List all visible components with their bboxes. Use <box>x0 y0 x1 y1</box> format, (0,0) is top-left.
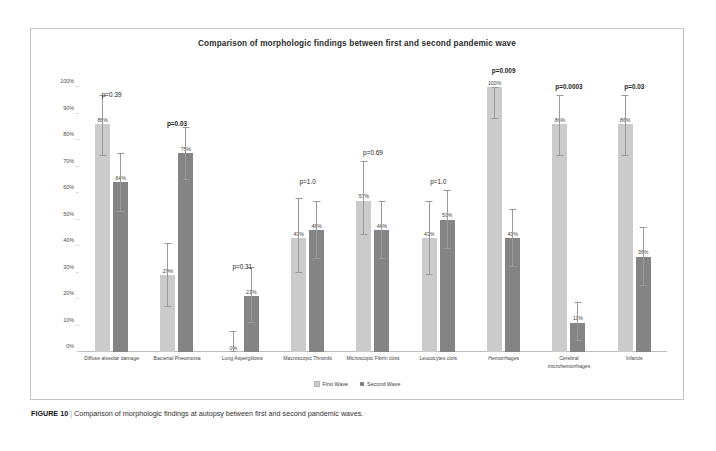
p-value-annotation: p=1.0 <box>430 178 446 185</box>
category-label: Diffuse alveolar damage <box>79 355 144 370</box>
bar-value-label: 100% <box>488 80 501 86</box>
error-bar <box>574 302 581 342</box>
figure-page: Comparison of morphologic findings betwe… <box>0 0 716 451</box>
legend-label: First Wave <box>323 381 349 387</box>
figure-caption: FIGURE 10|Comparison of morphologic find… <box>31 409 681 419</box>
error-bar-cap-bottom <box>622 155 629 156</box>
error-bar <box>556 95 563 156</box>
error-bar-cap-top <box>164 243 171 244</box>
error-bar-stem <box>643 227 644 285</box>
category-label: Leucocytes clots <box>406 355 471 370</box>
error-bar <box>99 95 106 156</box>
legend-label: Second Wave <box>367 381 400 387</box>
p-value-annotation: p=0.69 <box>363 149 383 156</box>
bar[interactable]: 86% <box>95 124 110 352</box>
bar-slot: 46% <box>309 87 324 352</box>
bar-slot: 86% <box>95 87 110 352</box>
error-bar <box>117 153 124 211</box>
error-bar <box>360 161 367 235</box>
p-value-annotation: p=0.0003 <box>555 83 582 90</box>
error-bar-stem <box>316 201 317 259</box>
bar-slot: 86% <box>618 87 633 352</box>
error-bar-stem <box>298 198 299 272</box>
error-bar-cap-top <box>426 201 433 202</box>
error-bar-cap-top <box>117 153 124 154</box>
error-bar-cap-bottom <box>574 340 581 341</box>
legend-swatch-icon <box>314 381 320 387</box>
p-value-annotation: p=0.03 <box>167 120 187 127</box>
y-axis-tick-label: 40% <box>63 237 74 243</box>
bar-group: 100%43%p=0.009 <box>471 87 536 352</box>
p-value-annotation: p=0.03 <box>624 83 644 90</box>
error-bar-cap-bottom <box>248 322 255 323</box>
p-value-annotation: p=0.009 <box>492 67 516 74</box>
error-bar-stem <box>102 95 103 156</box>
bar[interactable]: 86% <box>552 124 567 352</box>
y-axis-tick-label: 70% <box>63 158 74 164</box>
error-bar <box>444 190 451 248</box>
error-bar-cap-bottom <box>378 258 385 259</box>
error-bar-cap-bottom <box>117 211 124 212</box>
bar-group: 29%75%p=0.03 <box>144 87 209 352</box>
y-axis-tick-label: 100% <box>60 78 74 84</box>
error-bar-cap-top <box>556 95 563 96</box>
y-axis-tick-label: 80% <box>63 131 74 137</box>
chart-legend: First WaveSecond Wave <box>31 381 683 387</box>
bar-slot: 46% <box>374 87 389 352</box>
y-axis-tick-label: 30% <box>63 264 74 270</box>
bar-slot: 43% <box>422 87 437 352</box>
error-bar <box>491 87 498 119</box>
error-bar <box>640 227 647 285</box>
bar-slot: 43% <box>505 87 520 352</box>
error-bar <box>313 201 320 259</box>
error-bar-cap-bottom <box>230 351 237 352</box>
category-axis-labels: Diffuse alveolar damageBacterial Pneumon… <box>79 355 667 370</box>
bar-group: 86%11%p=0.0003 <box>536 87 601 352</box>
error-bar-cap-top <box>574 302 581 303</box>
y-axis-tick-label: 20% <box>63 290 74 296</box>
bar[interactable]: 100% <box>487 87 502 352</box>
chart-title: Comparison of morphologic findings betwe… <box>31 39 683 48</box>
error-bar-cap-top <box>491 87 498 88</box>
bar-group: 86%36%p=0.03 <box>602 87 667 352</box>
bar-slot: 36% <box>636 87 651 352</box>
figure-frame: Comparison of morphologic findings betwe… <box>30 28 684 400</box>
error-bar-stem <box>447 190 448 248</box>
bar-group: 43%50%p=1.0 <box>406 87 471 352</box>
error-bar <box>378 201 385 259</box>
legend-item[interactable]: First Wave <box>314 381 349 387</box>
p-value-annotation: p=1.0 <box>300 178 316 185</box>
error-bar <box>295 198 302 272</box>
error-bar <box>622 95 629 156</box>
figure-number: FIGURE 10 <box>31 409 68 418</box>
bar[interactable]: 86% <box>618 124 633 352</box>
bar-groups: 86%64%p=0.3929%75%p=0.030%21%p=0.3143%46… <box>79 87 667 352</box>
bar-slot: 86% <box>552 87 567 352</box>
error-bar <box>509 209 516 267</box>
bar-slot: 50% <box>440 87 455 352</box>
error-bar-cap-bottom <box>426 274 433 275</box>
bar-group: 43%46%p=1.0 <box>275 87 340 352</box>
bar[interactable]: 75% <box>178 153 193 352</box>
error-bar-stem <box>185 127 186 180</box>
error-bar-cap-top <box>182 127 189 128</box>
category-label: Hemorrhages <box>471 355 536 370</box>
error-bar-cap-bottom <box>313 258 320 259</box>
p-value-annotation: p=0.31 <box>232 263 252 270</box>
legend-item[interactable]: Second Wave <box>360 381 400 387</box>
category-label: Microscopic Fibrin clots <box>340 355 405 370</box>
error-bar-cap-bottom <box>164 306 171 307</box>
error-bar-cap-top <box>295 198 302 199</box>
category-label: Lung Aspergillosis <box>210 355 275 370</box>
error-bar-stem <box>233 331 234 352</box>
bar-slot: 64% <box>113 87 128 352</box>
error-bar-stem <box>577 302 578 342</box>
bar-slot: 11% <box>570 87 585 352</box>
legend-swatch-icon <box>360 382 364 386</box>
error-bar <box>182 127 189 180</box>
bar-slot: 57% <box>356 87 371 352</box>
bar-slot: 21% <box>244 87 259 352</box>
p-value-annotation: p=0.39 <box>102 91 122 98</box>
error-bar-cap-top <box>444 190 451 191</box>
error-bar-cap-bottom <box>444 248 451 249</box>
